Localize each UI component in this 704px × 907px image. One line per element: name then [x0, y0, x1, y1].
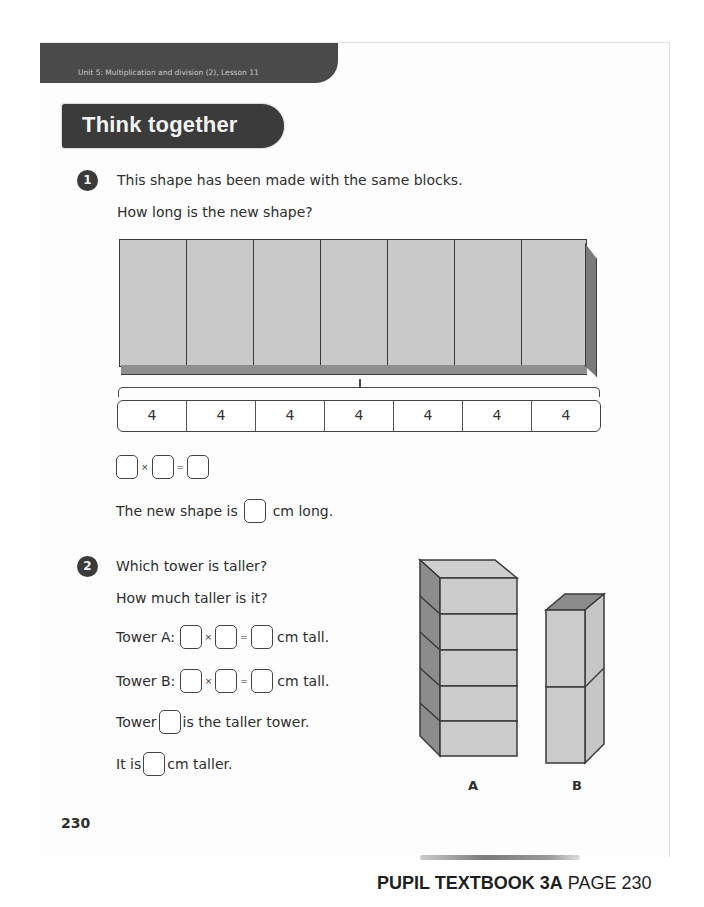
tower-a-label: Tower A:: [116, 629, 175, 645]
taller-prefix: Tower: [116, 714, 157, 730]
block: [454, 239, 522, 367]
times-sign: ×: [141, 462, 149, 472]
block: [387, 239, 455, 367]
footer-book: PUPIL TEXTBOOK 3A: [377, 873, 563, 893]
question-2-subtext: How much taller is it?: [116, 590, 268, 606]
equals-sign: =: [177, 462, 185, 472]
answer-box-factor-2[interactable]: [152, 455, 174, 479]
taller-suffix: is the taller tower.: [183, 714, 310, 730]
tower-a-suffix: cm tall.: [277, 629, 329, 645]
tower-a-box-2[interactable]: [215, 625, 237, 649]
textbook-page: Unit 5: Multiplication and division (2),…: [40, 42, 670, 857]
equals-sign: =: [240, 676, 248, 686]
tower-b-suffix: cm tall.: [277, 673, 329, 689]
question-1-text: This shape has been made with the same b…: [117, 172, 463, 188]
tower-b-label: Tower B:: [116, 673, 175, 689]
bar-cell: 4: [325, 401, 394, 431]
length-brace: [118, 387, 600, 397]
bar-cell: 4: [256, 401, 325, 431]
difference-box[interactable]: [143, 752, 165, 776]
unit-lesson-label: Unit 5: Multiplication and division (2),…: [78, 68, 259, 77]
taller-tower-sentence: Toweris the taller tower.: [116, 710, 309, 734]
footer-shadow: [420, 855, 580, 860]
bar-cell: 4: [463, 401, 532, 431]
tower-a-box-result[interactable]: [251, 625, 273, 649]
answer-box-length[interactable]: [244, 499, 266, 523]
towers-diagram: [418, 558, 618, 778]
block: [320, 239, 388, 367]
times-sign: ×: [205, 676, 213, 686]
brace-tick: [359, 379, 361, 387]
tower-b-box-result[interactable]: [251, 669, 273, 693]
diff-suffix: cm taller.: [167, 756, 232, 772]
page-number: 230: [61, 815, 90, 831]
section-heading: Think together: [62, 104, 284, 148]
question-2-number-badge: 2: [77, 556, 98, 577]
bar-cell: 4: [118, 401, 187, 431]
answer-prefix: The new shape is: [116, 503, 238, 519]
q1-answer-sentence: The new shape is cm long.: [116, 499, 333, 523]
tower-a: [420, 560, 517, 756]
block-shape-diagram: [119, 239, 603, 379]
tower-b-label: B: [572, 778, 582, 793]
diff-prefix: It is: [116, 756, 141, 772]
answer-box-factor-1[interactable]: [116, 455, 138, 479]
question-1-number-badge: 1: [77, 170, 98, 191]
answer-suffix: cm long.: [273, 503, 333, 519]
tower-b-box-1[interactable]: [180, 669, 202, 693]
block: [119, 239, 187, 367]
block-bottom-edge: [121, 365, 587, 375]
block: [253, 239, 321, 367]
question-2-text: Which tower is taller?: [116, 558, 267, 574]
tower-a-box-1[interactable]: [180, 625, 202, 649]
tower-b-box-2[interactable]: [215, 669, 237, 693]
footer-caption: PUPIL TEXTBOOK 3A PAGE 230: [377, 873, 651, 894]
footer-page: PAGE 230: [568, 873, 652, 893]
block-side-face: [585, 243, 597, 377]
tower-a-equation: Tower A: ×= cm tall.: [116, 625, 329, 649]
bar-cell: 4: [532, 401, 600, 431]
unit-banner: Unit 5: Multiplication and division (2),…: [40, 43, 338, 83]
bar-cell: 4: [187, 401, 256, 431]
difference-sentence: It iscm taller.: [116, 752, 232, 776]
question-1-subtext: How long is the new shape?: [117, 204, 313, 220]
bar-model: 4 4 4 4 4 4 4: [117, 400, 601, 432]
times-sign: ×: [205, 632, 213, 642]
tower-b-equation: Tower B: ×= cm tall.: [116, 669, 329, 693]
q1-equation: ×=: [116, 455, 209, 479]
answer-box-product[interactable]: [187, 455, 209, 479]
bar-cell: 4: [394, 401, 463, 431]
section-title: Think together: [82, 112, 238, 138]
block: [521, 239, 587, 367]
equals-sign: =: [240, 632, 248, 642]
block: [186, 239, 254, 367]
tower-a-label: A: [468, 778, 478, 793]
tower-b: [546, 594, 604, 763]
taller-tower-box[interactable]: [159, 710, 181, 734]
